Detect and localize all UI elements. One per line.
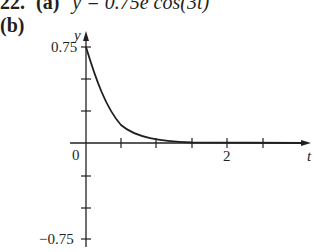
y-tick-label-bottom: −0.75 [39,231,74,247]
t-axis-label: t [307,148,312,164]
y-tick-label-top: 0.75 [51,39,77,55]
origin-label: 0 [72,147,80,163]
x-tick-label-2: 2 [223,148,231,164]
curve [86,47,306,143]
y-axis-arrow-icon [83,31,89,41]
chart: y 0.75 0 2 t −0.75 [0,0,314,252]
